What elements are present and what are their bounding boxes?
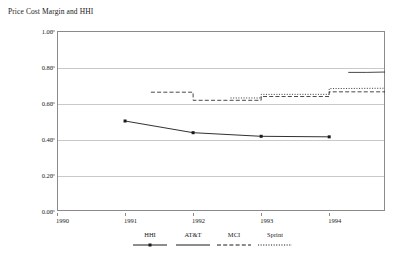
x-tick-mark xyxy=(329,213,330,216)
y-tick-label: 1.00 xyxy=(7,28,53,35)
chart-legend: HHIAT&TMCISprint xyxy=(0,231,405,253)
y-tick-mark xyxy=(51,103,55,104)
legend-swatch-mci xyxy=(217,243,251,249)
series-marker xyxy=(260,135,263,138)
y-tick-label: 0.00 xyxy=(7,208,53,215)
y-tick-label: 0.20 xyxy=(7,172,53,179)
y-tick-mark xyxy=(51,139,55,140)
x-tick-label: 1990 xyxy=(56,217,69,224)
y-tick-label: 0.60 xyxy=(7,100,53,107)
y-tick-mark xyxy=(51,67,55,68)
y-tick-label: 0.40 xyxy=(7,136,53,143)
legend-label-hhi: HHI xyxy=(130,231,170,238)
y-tick-label: 0.80 xyxy=(7,64,53,71)
x-tick-label: 1992 xyxy=(192,217,205,224)
legend-label-mci: MCI xyxy=(214,231,254,238)
legend-swatch-at-t xyxy=(176,243,210,249)
y-axis-labels: 0.000.200.400.600.801.00 xyxy=(0,31,53,211)
legend-swatch-hhi xyxy=(133,243,167,249)
series-marker xyxy=(124,120,127,123)
x-tick-mark xyxy=(193,213,194,216)
y-tick-mark xyxy=(51,31,55,32)
y-tick-mark xyxy=(51,175,55,176)
chart-root: Price Cost Margin and HHI 0.000.200.400.… xyxy=(0,0,405,253)
series-line-mci xyxy=(151,92,385,100)
x-tick-mark xyxy=(57,213,58,216)
series-line-hhi xyxy=(125,121,329,137)
series-marker xyxy=(328,135,331,138)
series-marker xyxy=(192,131,195,134)
x-tick-mark xyxy=(261,213,262,216)
series-layer xyxy=(57,31,385,211)
legend-label-sprint: Sprint xyxy=(255,231,295,238)
x-tick-label: 1991 xyxy=(124,217,137,224)
x-axis-labels: 19901991199219931994 xyxy=(57,213,385,233)
x-tick-label: 1993 xyxy=(260,217,273,224)
y-tick-mark xyxy=(51,211,55,212)
x-tick-label: 1994 xyxy=(328,217,341,224)
legend-label-at-t: AT&T xyxy=(173,231,213,238)
chart-title: Price Cost Margin and HHI xyxy=(8,7,93,16)
x-tick-mark xyxy=(125,213,126,216)
legend-swatch-sprint xyxy=(258,243,292,249)
